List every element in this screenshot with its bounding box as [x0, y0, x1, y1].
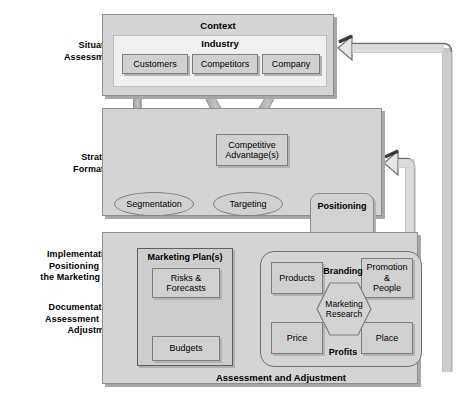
research-line-2: Research — [316, 309, 372, 319]
competitive-advantage-line-2: Advantage(s) — [225, 150, 279, 161]
node-competitors[interactable]: Competitors — [192, 54, 258, 74]
node-budgets[interactable]: Budgets — [152, 336, 220, 361]
feedback-trunk-outer — [443, 52, 452, 372]
feedback-top-run — [352, 44, 444, 53]
competitive-advantage-line-1: Competitive — [228, 140, 276, 151]
promotion-line-2: & — [384, 273, 390, 284]
node-price-label: Price — [287, 333, 308, 344]
node-risks-and-forecasts[interactable]: Risks & Forecasts — [152, 268, 220, 298]
node-products-label: Products — [279, 273, 315, 284]
node-place-label: Place — [376, 333, 399, 344]
node-positioning-label: Positioning — [311, 201, 373, 211]
label-assessment-and-adjustment: Assessment and Adjustment — [143, 372, 419, 383]
promotion-line-1: Promotion — [366, 262, 407, 273]
research-line-1: Marketing — [316, 299, 372, 309]
node-company[interactable]: Company — [262, 54, 320, 74]
node-targeting-label: Targeting — [229, 199, 266, 209]
context-panel-title: Context — [103, 20, 333, 31]
node-budgets-label: Budgets — [169, 343, 202, 354]
node-segmentation[interactable]: Segmentation — [114, 192, 194, 216]
marketing-plan-box: Marketing Plan(s) Risks & Forecasts Budg… — [137, 248, 233, 366]
label-branding: Branding — [321, 266, 365, 276]
marketing-mix-container: Products Price Promotion & People Place … — [260, 251, 422, 367]
node-competitive-advantage[interactable]: Competitive Advantage(s) — [216, 134, 288, 166]
node-segmentation-label: Segmentation — [126, 199, 182, 209]
node-marketing-research[interactable]: Marketing Research — [316, 282, 372, 336]
industry-panel: Industry Customers Competitors Company — [113, 35, 327, 87]
marketing-plan-title: Marketing Plan(s) — [138, 252, 232, 262]
node-targeting[interactable]: Targeting — [213, 192, 283, 216]
node-competitors-label: Competitors — [201, 59, 250, 70]
diagram-canvas: Situation Assessment Strategy Formation … — [0, 0, 473, 404]
context-panel: Context Industry Customers Competitors C… — [102, 14, 334, 96]
implementation-panel: Marketing Plan(s) Risks & Forecasts Budg… — [102, 232, 418, 384]
promotion-line-3: People — [373, 283, 401, 294]
node-customers[interactable]: Customers — [122, 54, 188, 74]
risks-line-2: Forecasts — [166, 283, 206, 294]
node-customers-label: Customers — [133, 59, 177, 70]
node-company-label: Company — [272, 59, 311, 70]
marketing-research-label: Marketing Research — [316, 299, 372, 319]
risks-line-1: Risks & — [171, 273, 202, 284]
label-profits: Profits — [321, 347, 365, 357]
feedback-mid-run — [398, 159, 415, 168]
industry-panel-title: Industry — [114, 38, 326, 49]
